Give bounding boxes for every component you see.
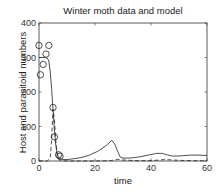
data-series bbox=[36, 42, 207, 161]
x-tick-label: 0 bbox=[36, 163, 41, 173]
x-tick-label: 40 bbox=[146, 163, 156, 173]
y-tick-label: 300 bbox=[21, 53, 36, 63]
y-tick-label: 0 bbox=[31, 156, 36, 166]
y-tick-label: 400 bbox=[21, 18, 36, 28]
axis-ticks: 02040600100200300400 bbox=[21, 18, 212, 173]
y-tick-label: 100 bbox=[21, 122, 36, 132]
plot-area: 02040600100200300400 bbox=[0, 0, 218, 192]
host-line bbox=[39, 58, 207, 160]
data-point-marker bbox=[37, 72, 43, 78]
data-point-marker bbox=[46, 42, 52, 48]
parasitoid-line bbox=[39, 109, 207, 161]
data-point-marker bbox=[40, 61, 46, 67]
data-point-marker bbox=[51, 134, 57, 140]
x-tick-label: 60 bbox=[202, 163, 212, 173]
axes-frame bbox=[39, 23, 207, 161]
data-point-marker bbox=[43, 51, 49, 57]
y-tick-label: 200 bbox=[21, 87, 36, 97]
x-tick-label: 20 bbox=[90, 163, 100, 173]
